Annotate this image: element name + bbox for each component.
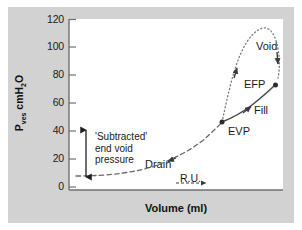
axis-lines [69, 19, 283, 190]
void-ascending-arrow [234, 68, 237, 78]
void-descending-arrow [277, 52, 278, 64]
void-curve [222, 28, 279, 122]
drain-curve [76, 122, 222, 176]
efp-marker [273, 83, 278, 88]
evp-marker [220, 120, 225, 125]
chart-vector-layer [0, 0, 302, 230]
figure-container: 120 100 80 60 40 20 0 Pves cmH2O Volume … [0, 0, 302, 230]
y-axis-ticks [69, 20, 76, 188]
fill-curve [222, 85, 275, 122]
